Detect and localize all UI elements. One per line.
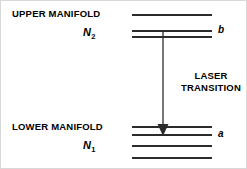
state-label-a: a (218, 128, 224, 139)
lower-manifold-label: LOWER MANIFOLD (12, 121, 103, 132)
lower-level-line-a (132, 134, 212, 136)
laser-transition-label-line1: LASER (194, 70, 227, 81)
lower-level-line-4 (132, 157, 212, 159)
energy-level-diagram: UPPER MANIFOLD N2 b LASER TRANSITION LOW… (0, 0, 247, 169)
laser-transition-label: LASER TRANSITION (178, 70, 244, 93)
population-symbol-n1-subscript: 1 (91, 145, 95, 154)
laser-transition-label-line2: TRANSITION (181, 82, 241, 93)
population-symbol-n1-letter: N (83, 139, 91, 151)
lower-level-line-1 (132, 126, 212, 128)
lower-level-line-3 (132, 145, 212, 147)
lower-manifold-population-symbol: N1 (83, 139, 95, 151)
